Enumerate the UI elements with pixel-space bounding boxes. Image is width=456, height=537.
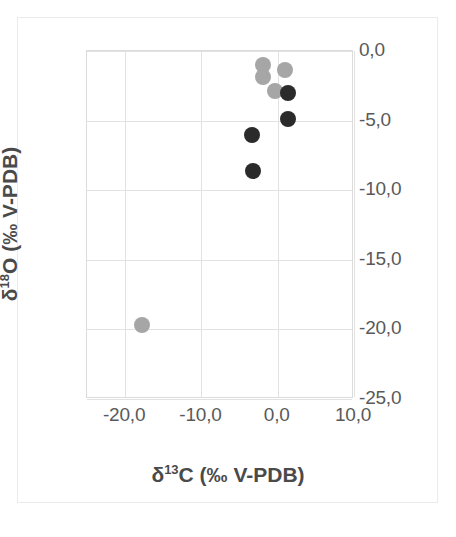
- plot-area: [86, 50, 353, 398]
- gridline-y-3: [87, 260, 352, 261]
- gridline-x-3: [354, 51, 355, 397]
- gridline-y-2: [87, 190, 352, 191]
- x-axis-title: δ13C (‰ V-PDB): [0, 463, 456, 487]
- y-tick-label-4: -20,0: [359, 317, 439, 339]
- gridline-x-2: [278, 51, 279, 397]
- y-tick-label-1: -5,0: [359, 109, 439, 131]
- y-axis-title-superscript: 18: [0, 274, 12, 288]
- gridline-y-4: [87, 329, 352, 330]
- gridline-y-5: [87, 399, 352, 400]
- x-axis-title-superscript: 13: [164, 462, 178, 477]
- gridline-x-0: [125, 51, 126, 397]
- y-tick-label-2: -10,0: [359, 178, 439, 200]
- y-axis-title-delta: δ: [0, 288, 21, 301]
- x-axis-title-rest: C (‰ V-PDB): [179, 463, 305, 486]
- gridline-x-1: [201, 51, 202, 397]
- y-axis-title: δ18O (‰ V-PDB): [0, 74, 22, 374]
- data-point-gray-series-2: [277, 62, 293, 78]
- data-point-gray-series-4: [134, 317, 150, 333]
- y-tick-label-0: 0,0: [359, 39, 439, 61]
- data-point-dark-series-0: [280, 85, 296, 101]
- gridline-y-1: [87, 121, 352, 122]
- x-axis-title-delta: δ: [151, 463, 164, 486]
- data-point-dark-series-1: [280, 111, 296, 127]
- y-axis-title-rest: O (‰ V-PDB): [0, 147, 21, 274]
- data-point-dark-series-2: [244, 127, 260, 143]
- y-tick-label-3: -15,0: [359, 248, 439, 270]
- data-point-dark-series-3: [245, 163, 261, 179]
- gridline-y-0: [87, 51, 352, 52]
- data-point-gray-series-1: [255, 69, 271, 85]
- x-tick-label-3: 10,0: [308, 404, 398, 426]
- scatter-chart: 0,0-5,0-10,0-15,0-20,0-25,0 -20,0-10,00,…: [0, 0, 456, 537]
